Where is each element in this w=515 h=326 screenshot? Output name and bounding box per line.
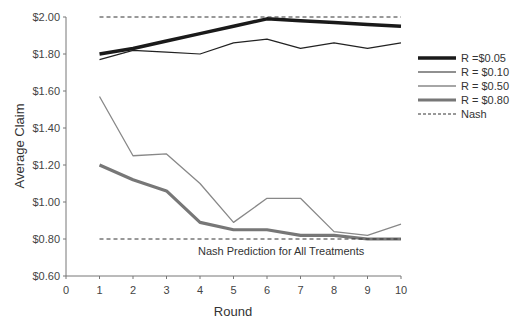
y-tick-label: $1.20 <box>32 159 60 171</box>
annotation-nash: Nash Prediction for All Treatments <box>198 245 365 257</box>
x-tick-label: 2 <box>130 284 136 296</box>
legend: R =$0.05R = $0.10R = $0.50R = $0.80Nash <box>418 52 509 120</box>
y-tick-label: $1.60 <box>32 85 60 97</box>
x-tick-label: 9 <box>364 284 370 296</box>
x-axis-label: Round <box>214 304 252 319</box>
x-tick-label: 0 <box>63 284 69 296</box>
series-lines <box>100 17 402 239</box>
x-tick-label: 10 <box>395 284 407 296</box>
y-tick-label: $1.00 <box>32 196 60 208</box>
x-tick-label: 4 <box>197 284 203 296</box>
x-tick-label: 7 <box>297 284 303 296</box>
series-line <box>100 39 402 59</box>
legend-label: R = $0.10 <box>461 66 509 78</box>
x-tick-label: 3 <box>163 284 169 296</box>
y-axis-label: Average Claim <box>12 103 27 188</box>
x-tick-label: 1 <box>96 284 102 296</box>
y-tick-label: $0.80 <box>32 233 60 245</box>
y-tick-label: $0.60 <box>32 270 60 282</box>
y-tick-label: $1.40 <box>32 122 60 134</box>
line-chart: $0.60$0.80$1.00$1.20$1.40$1.60$1.80$2.00… <box>0 0 515 326</box>
series-line <box>100 165 402 239</box>
legend-label: R =$0.05 <box>461 52 506 64</box>
legend-label: R = $0.50 <box>461 80 509 92</box>
y-tick-label: $1.80 <box>32 48 60 60</box>
y-tick-label: $2.00 <box>32 11 60 23</box>
legend-label: R = $0.80 <box>461 94 509 106</box>
x-tick-label: 8 <box>331 284 337 296</box>
x-tick-label: 5 <box>230 284 236 296</box>
x-tick-label: 6 <box>264 284 270 296</box>
series-line <box>100 19 402 54</box>
series-line <box>100 97 402 236</box>
legend-label: Nash <box>461 108 487 120</box>
